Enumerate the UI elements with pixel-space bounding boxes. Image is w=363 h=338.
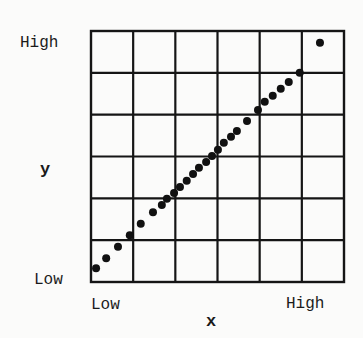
data-point — [269, 92, 277, 100]
data-point — [176, 183, 184, 191]
data-point — [296, 69, 304, 77]
x-tick-label-high: High — [286, 295, 324, 313]
data-point — [102, 254, 110, 262]
grid — [91, 31, 344, 282]
data-point — [208, 152, 216, 160]
data-point — [137, 220, 145, 228]
data-point — [227, 133, 235, 141]
data-point — [195, 164, 203, 172]
data-point — [149, 208, 157, 216]
data-point — [163, 195, 171, 203]
y-tick-label-low: Low — [34, 271, 63, 289]
data-point — [233, 127, 241, 135]
data-point — [285, 78, 293, 86]
data-point — [214, 146, 222, 154]
data-point — [92, 264, 100, 272]
data-point — [261, 98, 269, 106]
data-point — [277, 85, 285, 93]
data-point — [254, 106, 262, 114]
data-point — [220, 139, 228, 147]
data-point — [202, 158, 210, 166]
data-point — [170, 189, 178, 197]
y-axis-label: y — [40, 160, 50, 179]
data-point — [126, 231, 134, 239]
data-point — [158, 201, 166, 209]
y-tick-label-high: High — [20, 34, 58, 52]
data-point — [183, 177, 191, 185]
data-point — [189, 170, 197, 178]
data-point — [243, 117, 251, 125]
data-point — [114, 243, 122, 251]
x-tick-label-low: Low — [91, 296, 120, 314]
data-point — [316, 39, 324, 47]
scatter-chart: High y Low Low High x — [0, 0, 363, 338]
x-axis-label: x — [206, 312, 216, 331]
